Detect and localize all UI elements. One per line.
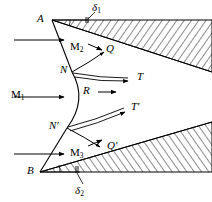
label-apex-lower: B xyxy=(27,165,34,176)
deflection-lower-subscript: 2 xyxy=(80,189,84,198)
deflection-upper-subscript: 1 xyxy=(97,6,101,15)
shock-interaction-diagram: A B δ1 δ2 M1 M2 M3 N N′ Q Q′ R T T′ xyxy=(0,0,212,202)
deflection-upper-leader xyxy=(88,12,95,19)
label-mach-stem: R xyxy=(83,85,90,96)
mach-freestream-subscript: 1 xyxy=(21,93,25,102)
label-deflection-upper: δ1 xyxy=(92,2,101,13)
label-mach-upper: M2 xyxy=(70,41,84,52)
mach-lower-subscript: 3 xyxy=(80,151,84,160)
label-triple-point-lower: N′ xyxy=(49,120,59,131)
label-slip-upper: T xyxy=(137,71,143,82)
mach-stem-curve xyxy=(67,72,79,128)
reflected-shock-upper xyxy=(72,52,104,72)
label-reflected-lower: Q′ xyxy=(107,140,117,151)
label-apex-upper: A xyxy=(37,13,44,24)
mach-upper-pointer-arrow xyxy=(88,44,102,50)
mach-upper-subscript: 2 xyxy=(80,45,84,54)
deflection-lower-leader xyxy=(77,173,83,184)
slip-line-upper xyxy=(73,73,128,81)
label-mach-freestream: M1 xyxy=(11,89,25,100)
label-mach-lower: M3 xyxy=(70,147,84,158)
mach-upper-symbol: M xyxy=(70,40,80,52)
mach-freestream-symbol: M xyxy=(11,88,21,100)
label-deflection-lower: δ2 xyxy=(75,185,84,196)
label-slip-lower: T′ xyxy=(131,101,140,112)
label-reflected-upper: Q xyxy=(106,43,114,54)
label-triple-point-upper: N xyxy=(60,64,67,75)
mach-lower-symbol: M xyxy=(70,146,80,158)
